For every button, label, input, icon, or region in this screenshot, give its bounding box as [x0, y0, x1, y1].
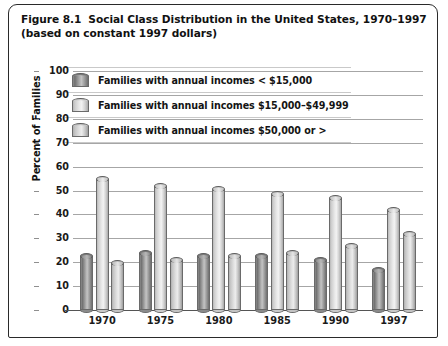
x-tick-label: 1985: [247, 315, 307, 326]
y-tick-mark: [34, 286, 39, 287]
gridline: [73, 71, 423, 72]
bar: [228, 253, 241, 310]
bar: [96, 176, 109, 310]
y-tick-mark: [34, 214, 39, 215]
gridline: [73, 167, 423, 168]
bar-group: [314, 71, 358, 310]
plot-area: [73, 71, 423, 310]
bar-group: [372, 71, 416, 310]
gridline: [73, 286, 423, 287]
figure-title: Social Class Distribution in the United …: [88, 13, 426, 25]
bar: [403, 231, 416, 310]
y-tick-label: 40: [43, 208, 69, 219]
gridline: [73, 119, 423, 120]
bar: [271, 191, 284, 311]
bar: [387, 207, 400, 310]
y-tick-label: 30: [43, 232, 69, 243]
y-tick-mark: [34, 143, 39, 144]
y-tick-mark: [34, 167, 39, 168]
bar-group: [80, 71, 124, 310]
bar: [80, 253, 93, 310]
gridline: [73, 238, 423, 239]
bar: [111, 260, 124, 310]
figure-subtitle: (based on constant 1997 dollars): [21, 27, 217, 39]
y-tick-mark: [34, 262, 39, 263]
y-tick-label: 80: [43, 113, 69, 124]
x-tick-label: 1980: [189, 315, 249, 326]
gridline: [73, 143, 423, 144]
y-tick-label: 60: [43, 161, 69, 172]
bar: [372, 267, 385, 310]
bar: [255, 253, 268, 310]
y-tick-label: 70: [43, 137, 69, 148]
y-tick-mark: [34, 95, 39, 96]
bar-group: [197, 71, 241, 310]
bar-group: [255, 71, 299, 310]
gridline: [73, 191, 423, 192]
bar: [170, 257, 183, 310]
y-tick-label: 50: [43, 185, 69, 196]
y-tick-mark: [34, 238, 39, 239]
x-tick-label: 1997: [364, 315, 424, 326]
gridline: [73, 262, 423, 263]
bar: [154, 183, 167, 310]
x-tick-label: 1990: [306, 315, 366, 326]
y-tick-label: 20: [43, 256, 69, 267]
y-axis-ticks: 0102030405060708090100: [39, 71, 69, 310]
y-tick-mark: [34, 119, 39, 120]
bar: [329, 195, 342, 310]
x-tick-label: 1970: [72, 315, 132, 326]
figure-card: Figure 8.1Social Class Distribution in t…: [8, 4, 438, 338]
y-tick-label: 90: [43, 89, 69, 100]
y-tick-mark: [34, 310, 39, 311]
bar-group: [139, 71, 183, 310]
figure-number: Figure 8.1: [21, 13, 81, 25]
figure-caption: Figure 8.1Social Class Distribution in t…: [21, 12, 427, 40]
bar: [139, 250, 152, 310]
bar: [314, 257, 327, 310]
y-tick-label: 10: [43, 280, 69, 291]
gridline: [73, 95, 423, 96]
x-tick-label: 1975: [131, 315, 191, 326]
bar: [345, 243, 358, 310]
bar: [212, 186, 225, 310]
y-tick-label: 100: [43, 65, 69, 76]
gridline: [73, 214, 423, 215]
y-tick-mark: [34, 71, 39, 72]
bar: [286, 250, 299, 310]
bar: [197, 253, 210, 310]
y-tick-mark: [34, 191, 39, 192]
